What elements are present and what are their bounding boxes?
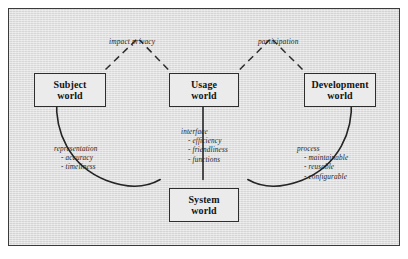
annotation-representation: representation - accuracy - timeliness: [54, 145, 98, 173]
node-subject-world[interactable]: Subject world: [34, 73, 106, 107]
node-usage-world-line1: Usage: [191, 79, 217, 90]
node-development-world[interactable]: Development world: [304, 73, 376, 107]
node-system-world[interactable]: System world: [169, 188, 239, 222]
annotation-process: process - maintainable - reusable - conf…: [297, 145, 348, 182]
annotation-interface-item-0: - efficiency: [181, 137, 228, 146]
annotation-interface-head: interface: [181, 128, 228, 137]
annotation-representation-item-0: - accuracy: [54, 154, 98, 163]
node-subject-world-line1: Subject: [54, 79, 87, 90]
edge-subject-to-system: [57, 99, 161, 186]
edge-label-impact-privacy: impact privacy: [109, 37, 155, 46]
annotation-representation-head: representation: [54, 145, 98, 154]
node-usage-world-line2: world: [191, 90, 217, 101]
node-subject-world-line2: world: [57, 90, 83, 101]
annotation-process-item-0: - maintainable: [297, 154, 348, 163]
diagram-page: Subject world Usage world Development wo…: [0, 0, 408, 259]
edge-label-participation: participation: [258, 37, 299, 46]
annotation-interface: interface - efficiency - friendliness - …: [181, 128, 228, 165]
annotation-process-item-2: - configurable: [297, 173, 348, 182]
annotation-interface-item-1: - friendliness: [181, 146, 228, 155]
annotation-process-head: process: [297, 145, 348, 154]
diagram-frame: Subject world Usage world Development wo…: [8, 8, 400, 246]
annotation-process-item-1: - reusable: [297, 163, 348, 172]
node-system-world-line2: world: [191, 205, 217, 216]
node-system-world-line1: System: [188, 194, 219, 205]
node-development-world-line1: Development: [311, 79, 368, 90]
node-usage-world[interactable]: Usage world: [169, 73, 239, 107]
annotation-representation-item-1: - timeliness: [54, 163, 98, 172]
annotation-interface-item-2: - functions: [181, 156, 228, 165]
node-development-world-line2: world: [327, 90, 353, 101]
